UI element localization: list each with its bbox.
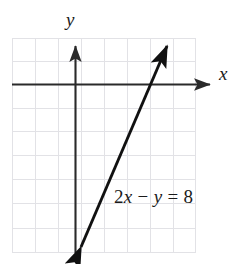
equation-equals-sign: = — [162, 186, 183, 207]
equation-coefficient: 2 — [114, 186, 124, 207]
plotted-line — [81, 46, 167, 247]
equation-annotation: 2x − y = 8 — [114, 186, 193, 209]
equation-constant: 8 — [184, 186, 194, 207]
graph-figure: y x 2x − y = 8 — [0, 0, 243, 264]
equation-x-variable: x — [124, 186, 133, 207]
y-axis-label: y — [66, 10, 74, 29]
grid-lines — [12, 38, 196, 253]
coordinate-plane-svg — [0, 0, 243, 264]
equation-minus-sign: − — [133, 186, 154, 207]
x-axis-label: x — [219, 64, 227, 83]
